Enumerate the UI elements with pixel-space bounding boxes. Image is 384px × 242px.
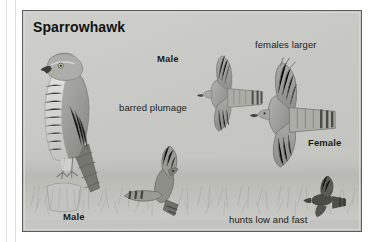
label-females-larger: females larger xyxy=(255,39,317,50)
perch-post xyxy=(47,183,81,212)
label-barred-plumage: barred plumage xyxy=(119,102,187,113)
figure-perched-male xyxy=(41,52,100,211)
page-rule-left-outer xyxy=(6,0,7,242)
page-canvas: Sparrowhawk Male barred plumage females … xyxy=(0,0,384,242)
label-male-perched: Male xyxy=(63,211,85,222)
page-rule-left-inner xyxy=(15,0,16,242)
illustration-plate: Sparrowhawk Male barred plumage females … xyxy=(22,10,362,232)
label-male-flight: Male xyxy=(157,53,179,64)
label-female: Female xyxy=(308,137,341,148)
label-hunts-low-and-fast: hunts low and fast xyxy=(229,214,307,225)
plate-title: Sparrowhawk xyxy=(33,19,125,35)
figure-flying-male xyxy=(197,56,262,132)
